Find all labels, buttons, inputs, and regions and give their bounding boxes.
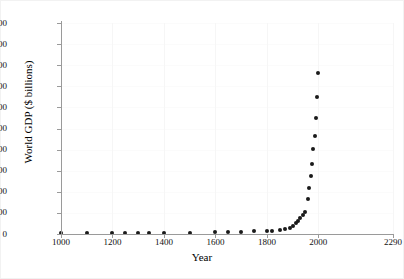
y-axis-tick-mark: [57, 65, 61, 66]
x-axis-tick-mark: [267, 234, 268, 238]
data-point: [283, 227, 287, 231]
gridline-horizontal: [61, 86, 393, 87]
y-axis-tick-label: 25000: [0, 124, 7, 133]
x-axis-tick-mark: [61, 234, 62, 238]
data-point: [315, 95, 319, 99]
data-point: [265, 229, 269, 233]
data-point: [278, 228, 282, 232]
gridline-vertical: [318, 23, 319, 234]
gridline-vertical: [215, 23, 216, 234]
chart-figure: World GDP ($ billions) Year 050001000015…: [0, 0, 404, 279]
gridline-vertical: [267, 23, 268, 234]
gridline-vertical: [393, 23, 394, 234]
x-axis-tick-mark: [318, 234, 319, 238]
y-axis-tick-mark: [57, 107, 61, 108]
y-axis-tick-label: 50000: [0, 19, 7, 28]
data-point: [306, 197, 310, 201]
gridline-horizontal: [61, 65, 393, 66]
x-axis-tick-mark: [215, 234, 216, 238]
x-axis-line: [61, 234, 393, 235]
y-axis-tick-label: 20000: [0, 145, 7, 154]
data-point: [313, 134, 317, 138]
y-axis-tick-label: 30000: [0, 103, 7, 112]
y-axis-tick-mark: [57, 150, 61, 151]
x-axis-title: Year: [1, 251, 403, 263]
y-axis-tick-label: 40000: [0, 61, 7, 70]
y-axis-line: [61, 21, 62, 235]
y-axis-tick-mark: [57, 44, 61, 45]
x-axis-tick-mark: [112, 234, 113, 238]
data-point: [314, 116, 318, 120]
gridline-vertical: [112, 23, 113, 234]
x-axis-tick-label: 2290: [363, 237, 404, 247]
y-axis-tick-mark: [57, 86, 61, 87]
gridline-horizontal: [61, 213, 393, 214]
y-axis-title: World GDP ($ billions): [22, 17, 34, 207]
y-axis-tick-mark: [57, 171, 61, 172]
y-axis-tick-label: 35000: [0, 82, 7, 91]
y-axis-tick-mark: [57, 213, 61, 214]
data-point: [309, 174, 313, 178]
y-axis-tick-mark: [57, 192, 61, 193]
y-axis-tick-mark: [57, 129, 61, 130]
gridline-horizontal: [61, 192, 393, 193]
data-point: [310, 162, 314, 166]
gridline-horizontal: [61, 171, 393, 172]
y-axis-tick-mark: [57, 23, 61, 24]
data-point: [307, 186, 311, 190]
x-axis-tick-mark: [164, 234, 165, 238]
gridline-vertical: [164, 23, 165, 234]
gridline-horizontal: [61, 23, 393, 24]
gridline-horizontal: [61, 44, 393, 45]
data-point: [316, 71, 320, 75]
y-axis-tick-label: 10000: [0, 187, 7, 196]
y-axis-tick-label: 45000: [0, 40, 7, 49]
gridline-horizontal: [61, 150, 393, 151]
y-axis-tick-label: 0: [0, 230, 7, 239]
data-point: [252, 229, 256, 233]
x-axis-tick-label: 2000: [288, 237, 348, 247]
plot-area: [61, 23, 393, 234]
y-axis-tick-label: 5000: [0, 208, 7, 217]
x-axis-tick-mark: [393, 234, 394, 238]
y-axis-tick-label: 15000: [0, 166, 7, 175]
data-point: [270, 229, 274, 233]
gridline-horizontal: [61, 107, 393, 108]
gridline-horizontal: [61, 129, 393, 130]
